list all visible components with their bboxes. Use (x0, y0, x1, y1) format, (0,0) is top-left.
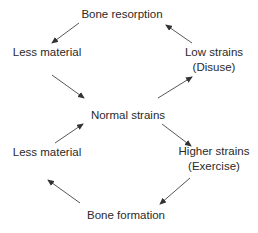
arrow-resorption-to-less-material (52, 23, 79, 43)
arrow-normal-strains-to-low-strains (158, 77, 192, 98)
arrow-formation-to-less-material (48, 180, 80, 203)
arrow-low-strains-to-resorption (166, 25, 192, 43)
arrow-less-material-to-normal-strains (52, 75, 84, 98)
arrow-less-material-bottom-to-normal-strains (55, 124, 83, 143)
arrow-higher-strains-to-formation (160, 178, 190, 204)
arrows-layer (0, 0, 258, 233)
arrow-normal-strains-to-higher-strains (162, 124, 191, 146)
